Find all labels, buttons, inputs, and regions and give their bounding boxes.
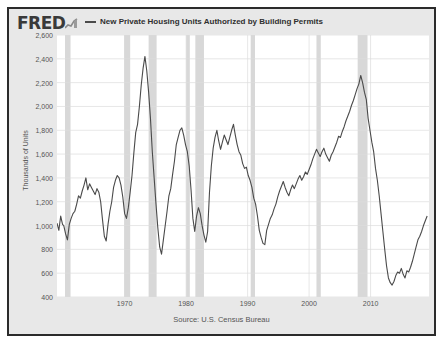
recession-band [251,35,255,297]
x-tick-label: 1980 [178,300,194,307]
spark-chart-icon [65,18,79,29]
recession-band [65,35,71,297]
recession-band [316,35,320,297]
data-line-housing-permits [57,56,427,285]
chart-frame: FRED New Private Housing Units Authorize… [7,7,436,336]
fred-logo: FRED [17,13,65,33]
x-tick-label: 2000 [301,300,317,307]
x-tick-label: 1990 [240,300,256,307]
chart-header: FRED New Private Housing Units Authorize… [9,9,434,33]
y-tick-label: 1,000 [35,222,53,229]
recession-band [149,35,157,297]
y-tick-label: 1,600 [35,151,53,158]
x-tick-label: 2010 [363,300,379,307]
y-tick-label: 2,000 [35,103,53,110]
y-tick-label: 2,400 [35,55,53,62]
legend-line-swatch [85,21,96,23]
y-tick-label: 800 [41,246,53,253]
y-tick-label: 1,400 [35,174,53,181]
recession-band [358,35,368,297]
y-tick-label: 2,200 [35,79,53,86]
chart-legend: New Private Housing Units Authorized by … [85,17,323,26]
plot-area: 4006008001,0001,2001,4001,6001,8002,0002… [57,35,429,297]
y-axis-title: Thousands of Units [22,101,29,221]
legend-label: New Private Housing Units Authorized by … [100,17,323,26]
source-caption: Source: U.S. Census Bureau [9,315,434,324]
recession-band [195,35,204,297]
y-tick-label: 600 [41,270,53,277]
plot-canvas [57,35,429,297]
y-tick-label: 1,200 [35,198,53,205]
x-tick-label: 1970 [117,300,133,307]
y-tick-label: 400 [41,294,53,301]
chart-svg [57,35,429,297]
y-tick-label: 1,800 [35,127,53,134]
y-tick-label: 2,600 [35,32,53,39]
